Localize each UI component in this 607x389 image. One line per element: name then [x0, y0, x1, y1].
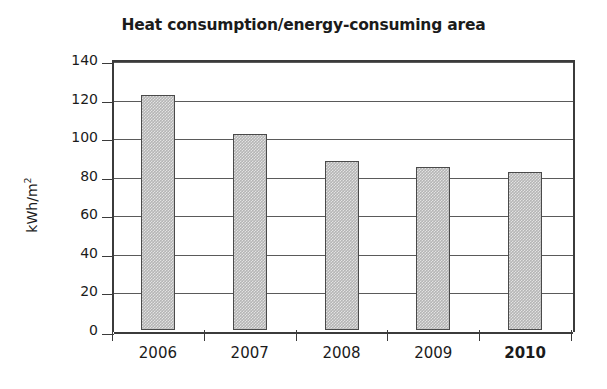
x-tick-2: [296, 330, 297, 341]
y-tick-label-20: 20: [48, 283, 98, 299]
bar-2010: [508, 172, 542, 330]
bar-2009: [416, 167, 450, 330]
gridline-140: [114, 62, 573, 63]
y-tick-label-60: 60: [48, 206, 98, 222]
x-tick-label-2008: 2008: [297, 344, 387, 362]
x-tick-label-2009: 2009: [388, 344, 478, 362]
y-axis-title-superscript: 2: [22, 177, 33, 183]
y-tick-label-120: 120: [48, 91, 98, 107]
x-tick-label-2007: 2007: [205, 344, 295, 362]
x-tick-label-2006: 2006: [113, 344, 203, 362]
y-tick-60: [102, 217, 114, 218]
x-tick-4: [479, 330, 480, 341]
y-tick-label-80: 80: [48, 168, 98, 184]
chart-title: Heat consumption/energy-consuming area: [0, 16, 607, 34]
gridline-120: [114, 101, 573, 102]
x-tick-1: [204, 330, 205, 341]
bar-2006: [141, 95, 175, 330]
y-tick-20: [102, 294, 114, 295]
bar-chart: Heat consumption/energy-consuming area k…: [0, 0, 607, 389]
y-tick-80: [102, 179, 114, 180]
y-tick-120: [102, 102, 114, 103]
y-tick-140: [102, 63, 114, 64]
y-tick-label-100: 100: [48, 129, 98, 145]
y-axis-title: kWh/m2: [22, 150, 40, 260]
y-tick-label-40: 40: [48, 245, 98, 261]
y-axis-title-text: kWh/m: [24, 183, 40, 232]
bar-2007: [233, 134, 267, 330]
x-tick-0: [112, 330, 113, 341]
x-tick-5: [571, 330, 572, 341]
gridline-100: [114, 139, 573, 140]
y-tick-label-0: 0: [48, 322, 98, 338]
bar-2008: [325, 161, 359, 330]
y-tick-40: [102, 256, 114, 257]
gridline-0: [114, 332, 573, 334]
y-tick-label-140: 140: [48, 52, 98, 68]
x-tick-label-2010: 2010: [480, 344, 570, 362]
y-tick-100: [102, 140, 114, 141]
x-tick-3: [387, 330, 388, 341]
